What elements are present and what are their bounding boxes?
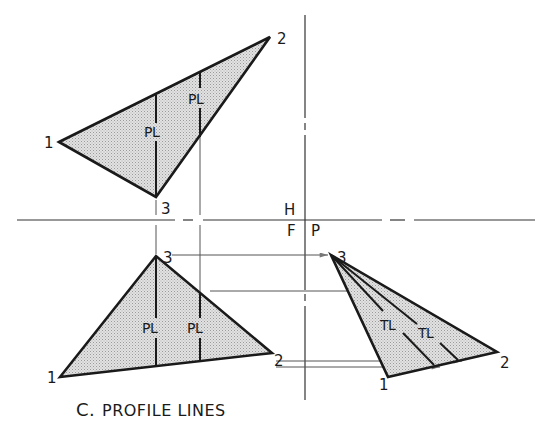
top-vertex-1-label: 1 <box>44 134 54 152</box>
profile-vertex-2-label: 2 <box>500 354 510 372</box>
fold-label-h: H <box>284 201 295 219</box>
front-vertex-2-label: 2 <box>274 352 284 370</box>
profile-vertex-1-label: 1 <box>379 376 389 394</box>
fold-label-p: P <box>311 222 320 240</box>
front-pl-label-1: PL <box>142 320 158 336</box>
top-view-triangle <box>59 37 270 197</box>
drawing-svg: 1 2 3 PL PL H F P 3 2 1 PL PL 3 2 1 TL T… <box>0 0 541 437</box>
profile-tl-label-1: TL <box>379 317 396 333</box>
figure-caption-prefix: C. <box>76 399 95 420</box>
descriptive-geometry-figure: 1 2 3 PL PL H F P 3 2 1 PL PL 3 2 1 TL T… <box>0 0 541 437</box>
front-view-triangle <box>60 256 272 377</box>
fold-label-f: F <box>287 222 296 240</box>
profile-vertex-3-label: 3 <box>337 249 347 267</box>
top-pl-label-1: PL <box>144 124 160 140</box>
front-vertex-3-label: 3 <box>163 249 173 267</box>
top-vertex-2-label: 2 <box>277 30 287 48</box>
top-vertex-3-label: 3 <box>161 200 171 218</box>
top-pl-label-2: PL <box>188 91 204 107</box>
profile-tl-label-2: TL <box>417 325 434 341</box>
front-vertex-1-label: 1 <box>47 369 57 387</box>
profile-view-triangle <box>331 255 497 377</box>
front-pl-label-2: PL <box>187 320 203 336</box>
figure-caption: PROFILE LINES <box>102 401 226 420</box>
